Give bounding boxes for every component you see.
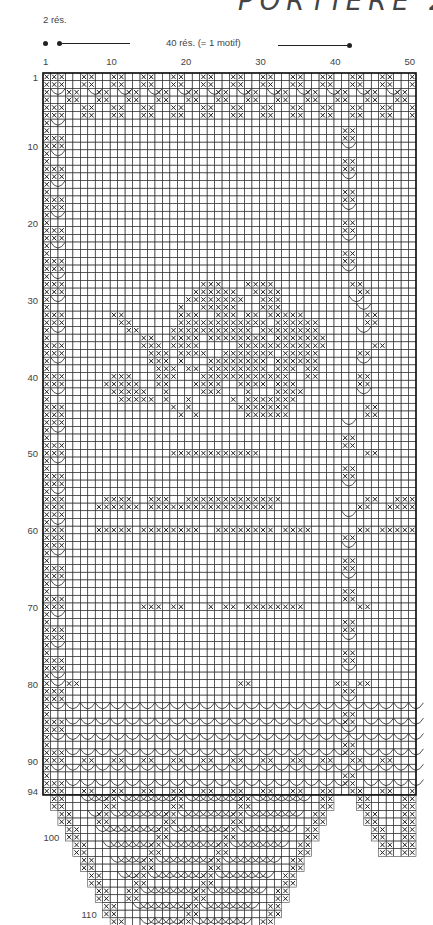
row-tick-20: 20 [8,218,38,229]
row-tick-10: 10 [8,141,38,152]
row-tick-1: 1 [8,72,38,83]
row-tick-80: 80 [8,679,38,690]
row-tick-40: 40 [8,372,38,383]
row-tick-94: 94 [8,786,38,797]
col-tick-1: 1 [43,56,48,67]
col-tick-30: 30 [255,56,266,67]
col-tick-40: 40 [330,56,341,67]
col-tick-50: 50 [405,56,416,67]
row-tick-30: 30 [8,295,38,306]
col-tick-20: 20 [181,56,192,67]
filet-chart-grid [0,0,433,925]
row-tick-110: 110 [67,909,97,920]
row-tick-60: 60 [8,525,38,536]
row-tick-90: 90 [8,756,38,767]
col-tick-10: 10 [106,56,117,67]
row-tick-100: 100 [29,832,59,843]
row-tick-50: 50 [8,448,38,459]
row-tick-70: 70 [8,602,38,613]
